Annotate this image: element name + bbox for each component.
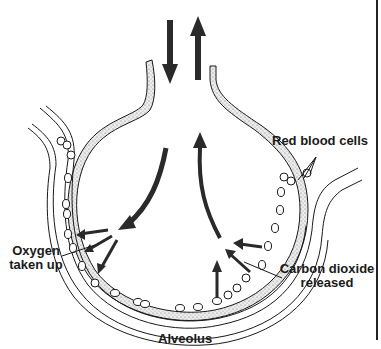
- leader-lines: [62, 157, 316, 278]
- diagram-canvas: [0, 0, 381, 349]
- red-blood-cells-label: Red blood cells: [272, 134, 368, 148]
- alveolus-diagram: Red blood cells Oxygen taken up Carbon d…: [0, 0, 381, 349]
- oxygen-label-line2: taken up: [8, 258, 64, 272]
- oxygen-label-line1: Oxygen: [8, 244, 64, 258]
- oxygen-into-alveolus-arrow: [118, 148, 166, 230]
- inhaled-air-arrow: [162, 20, 178, 84]
- co2-label-line2: released: [278, 276, 376, 290]
- co2-out-of-alveolus-arrow: [193, 132, 220, 238]
- co2-label-line1: Carbon dioxide: [278, 262, 376, 276]
- diagram-title: Alveolus: [158, 332, 212, 346]
- alveolus-wall: [68, 60, 308, 321]
- exhaled-air-arrow: [190, 16, 206, 80]
- page-border-line: [376, 0, 378, 340]
